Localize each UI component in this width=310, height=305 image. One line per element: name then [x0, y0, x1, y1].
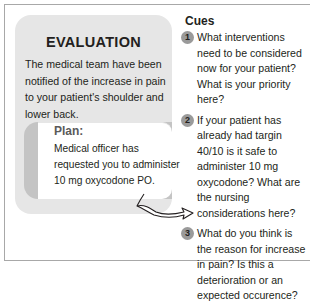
- plan-body: Medical officer has requested you to adm…: [54, 141, 182, 189]
- cue-item-3: 3 What do you think is the reason for in…: [180, 226, 306, 304]
- cue-text: What do you think is the reason for incr…: [197, 227, 305, 301]
- cue-number-badge: 1: [181, 31, 194, 44]
- cue-number-badge: 3: [181, 227, 194, 240]
- cues-section: Cues 1 What interventions need to be con…: [180, 12, 306, 305]
- plan-title: Plan:: [54, 124, 83, 138]
- cue-text: If your patient has already had targin 4…: [197, 114, 300, 219]
- cue-text: What interventions need to be considered…: [197, 31, 302, 105]
- evaluation-title: EVALUATION: [15, 34, 172, 50]
- plan-box: Plan: Medical officer has requested you …: [24, 122, 172, 199]
- cue-item-2: 2 If your patient has already had targin…: [180, 113, 306, 222]
- cue-item-1: 1 What interventions need to be consider…: [180, 30, 306, 108]
- cue-number-badge: 2: [181, 114, 194, 127]
- plan-content: Plan: Medical officer has requested you …: [38, 122, 172, 199]
- evaluation-body: The medical team have been notified of t…: [25, 56, 170, 122]
- cues-title: Cues: [185, 12, 306, 30]
